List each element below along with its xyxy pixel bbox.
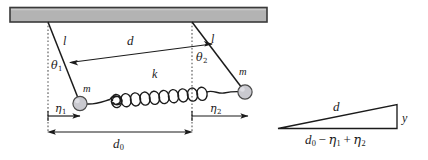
- mass-label-right: m: [239, 67, 247, 78]
- displacement-label-eta1: η1: [55, 103, 66, 115]
- mass-right: [238, 85, 252, 99]
- triangle-base-label: d0 − η1 + η2: [305, 133, 366, 148]
- mass-left: [73, 96, 87, 110]
- angle-label-theta1: θ1: [51, 60, 62, 72]
- rod-label-left: l: [63, 35, 66, 47]
- rod-label-right: l: [211, 33, 214, 45]
- mass-label-left: m: [83, 84, 91, 95]
- triangle-vertical-label: y: [402, 112, 407, 124]
- triangle-hypotenuse-label: d: [333, 100, 340, 113]
- support-bar: [10, 8, 267, 23]
- dimension-d0: [47, 129, 193, 135]
- rest-separation-label-d0: d0: [113, 137, 124, 152]
- separation-label-d: d: [127, 34, 134, 47]
- angle-label-theta2: θ2: [196, 52, 207, 64]
- physics-diagram: l l d θ1 θ2 m m k η1 η2 d0 d y d0 − η1 +…: [0, 0, 428, 160]
- spring-constant-label: k: [152, 68, 157, 80]
- displacement-label-eta2: η2: [210, 103, 221, 115]
